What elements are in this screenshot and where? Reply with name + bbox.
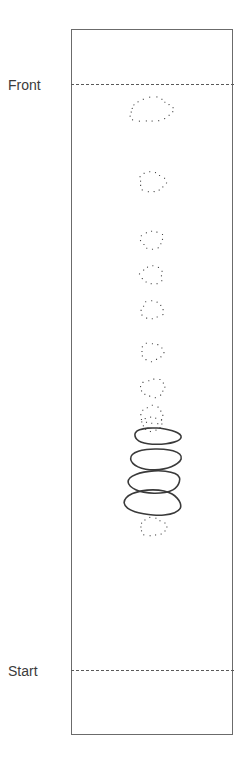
front-label: Front bbox=[8, 78, 41, 92]
start-reference-line bbox=[71, 670, 234, 671]
start-label: Start bbox=[8, 664, 38, 678]
channel-outline bbox=[71, 29, 233, 735]
front-reference-line bbox=[71, 84, 234, 85]
figure-container: Front Start bbox=[0, 0, 251, 783]
